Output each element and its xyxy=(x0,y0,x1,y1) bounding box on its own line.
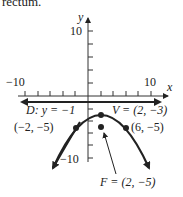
left-latus-point xyxy=(73,125,79,131)
vertex-label: V = (2, −3) xyxy=(112,104,167,116)
x-tick-label-min: −10 xyxy=(6,76,25,88)
right-point-label: (6, −5) xyxy=(131,121,164,133)
focus-label: F = (2, −5) xyxy=(100,176,156,188)
focus-point xyxy=(98,124,104,130)
focus-pointer-line xyxy=(104,133,116,174)
parabola-graph xyxy=(0,0,183,197)
y-tick-label-min: −10 xyxy=(60,153,79,165)
directrix-label: D: y = −1 xyxy=(26,104,75,116)
x-tick-label-max: 10 xyxy=(144,76,156,88)
y-axis-ticks xyxy=(88,31,93,158)
y-axis-label: y xyxy=(78,11,83,23)
vertex-point xyxy=(98,112,104,118)
directrix-equation: y = −1 xyxy=(42,103,76,117)
x-axis-label: x xyxy=(167,81,172,93)
right-latus-point xyxy=(123,125,129,131)
y-tick-label-max: 10 xyxy=(70,25,82,37)
directrix-prefix: D: xyxy=(26,103,39,117)
left-point-label: (−2, −5) xyxy=(14,121,54,133)
